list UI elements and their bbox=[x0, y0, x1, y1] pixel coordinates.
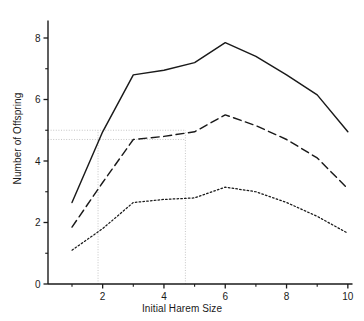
x-tick-label: 4 bbox=[161, 291, 167, 302]
y-tick-label: 6 bbox=[35, 94, 41, 105]
chart-figure: 02468246810 Number of Offspring Initial … bbox=[0, 0, 364, 321]
line-chart-plot: 02468246810 bbox=[0, 0, 364, 321]
y-tick-label: 0 bbox=[35, 279, 41, 290]
x-tick-label: 2 bbox=[100, 291, 106, 302]
y-tick-label: 2 bbox=[35, 217, 41, 228]
x-axis-label: Initial Harem Size bbox=[0, 303, 364, 314]
x-tick-label: 10 bbox=[342, 291, 354, 302]
series-line-dashed bbox=[72, 115, 348, 227]
series-line-dotted bbox=[72, 187, 348, 250]
x-tick-label: 6 bbox=[222, 291, 228, 302]
y-axis-label: Number of Offspring bbox=[12, 69, 23, 209]
y-tick-label: 4 bbox=[35, 156, 41, 167]
series-line-solid bbox=[72, 43, 348, 203]
x-tick-label: 8 bbox=[284, 291, 290, 302]
y-tick-label: 8 bbox=[35, 33, 41, 44]
